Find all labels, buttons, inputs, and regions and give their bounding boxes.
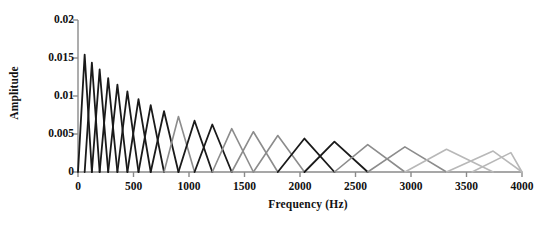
filter-10 <box>164 117 195 172</box>
filter-5 <box>108 85 127 172</box>
filter-22 <box>472 153 522 172</box>
filter-9 <box>151 111 179 172</box>
filter-14 <box>232 132 278 172</box>
x-axis-title-text: Frequency (Hz) <box>268 198 348 210</box>
chart-plot-area <box>0 0 556 225</box>
filter-7 <box>127 99 150 172</box>
filter-11 <box>178 121 212 172</box>
filter-12 <box>195 125 232 173</box>
y-tick-label: 0.01 <box>16 90 74 102</box>
y-tick-label: 0.015 <box>16 52 74 64</box>
y-axis-tick-labels: 00.0050.010.0150.02 <box>12 0 74 225</box>
filter-curves <box>78 55 522 172</box>
filter-19 <box>368 147 447 172</box>
filter-17 <box>304 142 367 172</box>
filter-13 <box>212 129 253 172</box>
y-tick-label: 0 <box>16 166 74 178</box>
y-tick-label: 0.005 <box>16 128 74 140</box>
filter-8 <box>138 105 164 172</box>
y-tick-label: 0.02 <box>16 14 74 26</box>
filter-18 <box>334 145 404 172</box>
filter-15 <box>253 136 304 172</box>
x-axis-title: Frequency (Hz) <box>0 198 556 210</box>
filter-16 <box>278 139 335 172</box>
filter-6 <box>117 91 138 172</box>
mel-filterbank-figure: Amplitude 00.0050.010.0150.02 0500100015… <box>0 0 556 225</box>
